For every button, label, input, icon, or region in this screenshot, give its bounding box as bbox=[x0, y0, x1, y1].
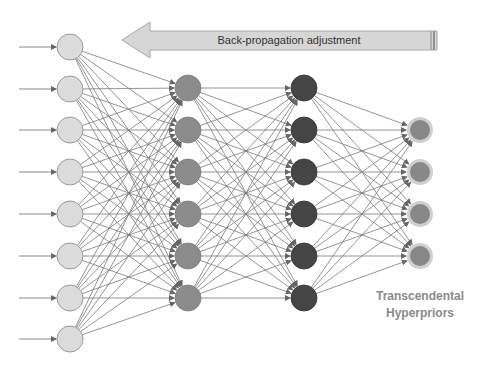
hidden-node bbox=[291, 159, 317, 185]
input-node bbox=[57, 285, 83, 311]
layer-input bbox=[57, 34, 83, 352]
hidden-node bbox=[291, 285, 317, 311]
hidden-node bbox=[291, 243, 317, 269]
connection-edge bbox=[313, 140, 411, 246]
connection-edge bbox=[194, 100, 297, 286]
output-node bbox=[410, 162, 430, 182]
layer-hidden-2 bbox=[291, 75, 317, 311]
connection-edge bbox=[197, 98, 295, 204]
hidden-node bbox=[175, 243, 201, 269]
hidden-node bbox=[175, 117, 201, 143]
output-node bbox=[410, 246, 430, 266]
connection-edge bbox=[82, 303, 174, 335]
hidden-node bbox=[175, 285, 201, 311]
input-node bbox=[57, 159, 83, 185]
output-node bbox=[410, 204, 430, 224]
connection-edge bbox=[79, 224, 178, 329]
caption-line-2: Hyperpriors bbox=[350, 305, 479, 322]
input-node bbox=[57, 117, 83, 143]
connection-edge bbox=[83, 88, 174, 89]
input-node bbox=[57, 201, 83, 227]
connection-edge bbox=[76, 142, 181, 327]
hidden-node bbox=[175, 159, 201, 185]
connection-edge bbox=[197, 182, 295, 288]
layer-output bbox=[407, 117, 433, 269]
output-node bbox=[410, 120, 430, 140]
layer-hidden-1 bbox=[175, 75, 201, 311]
output-layer-caption: Transcendental Hyperpriors bbox=[350, 288, 479, 322]
caption-line-1: Transcendental bbox=[350, 288, 479, 305]
connection-edge bbox=[316, 92, 407, 125]
input-node bbox=[57, 76, 83, 102]
input-node bbox=[57, 326, 83, 352]
connection-edge bbox=[313, 182, 411, 288]
hidden-node bbox=[291, 117, 317, 143]
input-arrows bbox=[19, 47, 56, 339]
hidden-node bbox=[291, 201, 317, 227]
connection-edge bbox=[82, 51, 174, 83]
input-node bbox=[57, 243, 83, 269]
hidden-node bbox=[175, 75, 201, 101]
input-node bbox=[57, 34, 83, 60]
back-propagation-label: Back-propagation adjustment bbox=[160, 31, 418, 49]
connection-edge bbox=[195, 100, 296, 246]
connection-edge bbox=[311, 142, 412, 288]
hidden-node bbox=[291, 75, 317, 101]
hidden-node bbox=[175, 201, 201, 227]
connection-edge bbox=[195, 142, 296, 288]
